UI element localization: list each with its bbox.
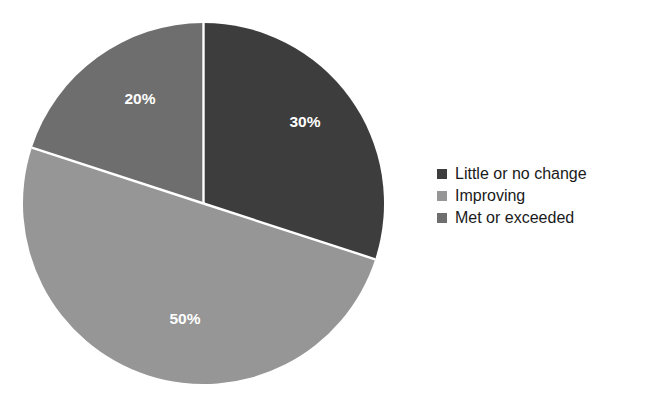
pie-chart-figure: 30% 50% 20% Little or no change Improvin…: [0, 0, 651, 413]
legend-item-label: Little or no change: [455, 166, 587, 182]
legend-item-little-or-no-change[interactable]: Little or no change: [437, 163, 642, 185]
legend-item-label: Improving: [455, 188, 525, 204]
slice-value-label-met-or-exceeded: 20%: [124, 90, 155, 107]
legend-swatch-icon: [437, 169, 447, 179]
slice-value-label-improving: 50%: [169, 310, 200, 327]
chart-legend: Little or no change Improving Met or exc…: [437, 163, 642, 229]
legend-swatch-icon: [437, 213, 447, 223]
legend-swatch-icon: [437, 191, 447, 201]
legend-item-met-or-exceeded[interactable]: Met or exceeded: [437, 207, 642, 229]
legend-item-label: Met or exceeded: [455, 210, 574, 226]
slice-value-label-little-or-no-change: 30%: [289, 113, 320, 130]
legend-item-improving[interactable]: Improving: [437, 185, 642, 207]
